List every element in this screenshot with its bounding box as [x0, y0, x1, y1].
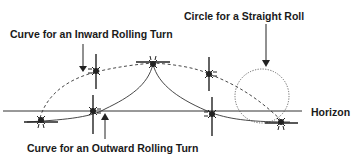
arrow-outward — [101, 113, 109, 139]
straight-roll-circle — [235, 69, 289, 123]
aircraft-icon — [265, 118, 298, 130]
aircraft-icon — [204, 97, 216, 136]
aircraft-icon — [24, 116, 58, 128]
outward-rolling-curve-right — [153, 64, 290, 122]
aircraft-icon — [136, 56, 170, 68]
aircraft-icon — [88, 54, 100, 89]
rolling-turn-diagram: Curve for an Inward Rolling Turn Circle … — [0, 0, 357, 158]
label-inward-rolling-turn: Curve for an Inward Rolling Turn — [10, 29, 173, 40]
diagram-canvas — [0, 0, 357, 158]
label-straight-roll: Circle for a Straight Roll — [184, 11, 304, 22]
arrow-straight — [262, 24, 270, 67]
inward-rolling-curve — [40, 63, 282, 121]
label-outward-rolling-turn: Curve for an Outward Rolling Turn — [27, 143, 198, 154]
label-horizon: Horizon — [311, 107, 350, 118]
aircraft-icon — [205, 57, 217, 91]
arrow-inward — [79, 44, 87, 72]
